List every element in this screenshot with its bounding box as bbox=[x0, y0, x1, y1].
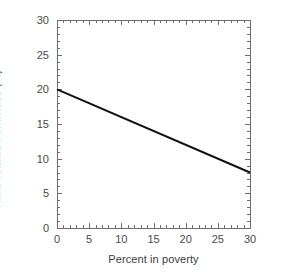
y-tick-label: 20 bbox=[37, 83, 49, 95]
chart-container: Knife-related homicides (%) Percent in p… bbox=[0, 0, 285, 278]
series-line bbox=[57, 89, 250, 172]
x-tick-label: 30 bbox=[244, 233, 256, 245]
y-tick-label: 0 bbox=[43, 222, 49, 234]
x-tick-label: 0 bbox=[54, 233, 60, 245]
plot-area: 051015202530 051015202530 bbox=[0, 0, 285, 278]
x-tick-label: 5 bbox=[86, 233, 92, 245]
x-axis-tick-labels: 051015202530 bbox=[54, 233, 256, 245]
x-tick-label: 20 bbox=[180, 233, 192, 245]
y-tick-label: 30 bbox=[37, 14, 49, 26]
x-tick-label: 15 bbox=[147, 233, 159, 245]
y-axis-tick-labels: 051015202530 bbox=[37, 14, 49, 234]
y-tick-label: 15 bbox=[37, 118, 49, 130]
x-tick-label: 25 bbox=[212, 233, 224, 245]
y-tick-label: 5 bbox=[43, 187, 49, 199]
data-series bbox=[57, 89, 250, 172]
x-tick-label: 10 bbox=[115, 233, 127, 245]
y-tick-label: 25 bbox=[37, 49, 49, 61]
y-tick-label: 10 bbox=[37, 153, 49, 165]
plot-frame bbox=[57, 20, 250, 228]
axis-ticks bbox=[57, 20, 251, 229]
